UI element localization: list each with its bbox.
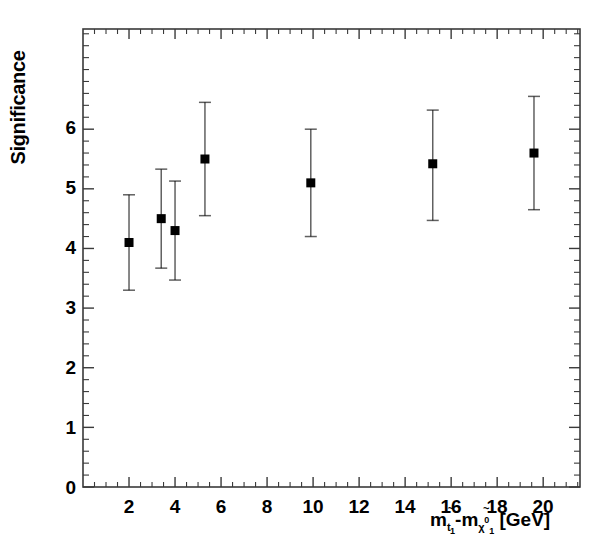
plot-canvas: [0, 0, 598, 551]
data-point: [169, 181, 181, 280]
data-marker: [125, 238, 134, 247]
data-marker: [157, 214, 166, 223]
data-point: [305, 129, 317, 236]
data-marker: [529, 149, 538, 158]
chart-figure: Significance 0 1 2 3 4 5 6 2 4 6 8 10 12…: [0, 0, 598, 551]
plot-frame: [83, 29, 580, 487]
data-marker: [200, 155, 209, 164]
data-point: [528, 96, 540, 209]
data-marker: [171, 226, 180, 235]
data-marker: [306, 178, 315, 187]
data-series: [123, 96, 540, 290]
data-marker: [428, 159, 437, 168]
data-point: [155, 169, 167, 268]
data-point: [123, 195, 135, 290]
plot-frame-rect: [83, 29, 580, 487]
data-point: [427, 110, 439, 220]
axis-ticks: [83, 29, 580, 487]
data-point: [199, 102, 211, 215]
